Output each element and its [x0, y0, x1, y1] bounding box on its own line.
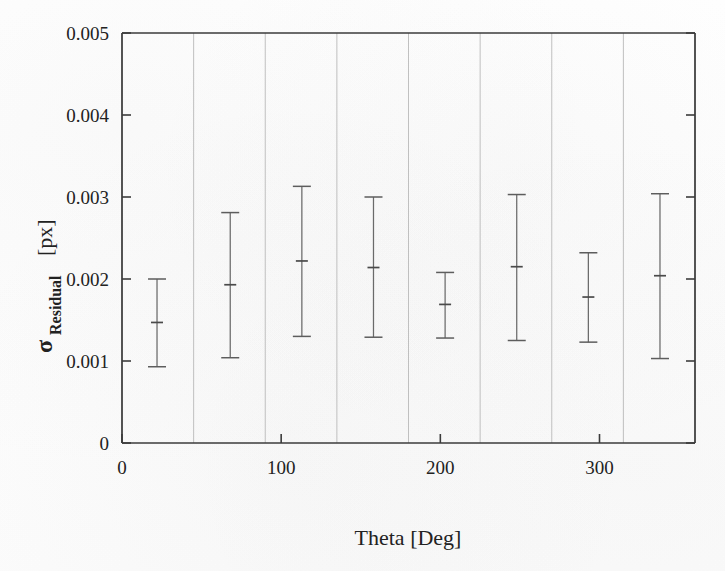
- x-tick-label: 100: [267, 457, 296, 478]
- y-tick-label: 0.001: [66, 351, 109, 372]
- y-axis-subscript: Residual: [47, 275, 64, 335]
- y-tick-label: 0.005: [66, 23, 109, 44]
- x-tick-label: 300: [585, 457, 614, 478]
- error-bar-point[interactable]: [579, 253, 597, 342]
- x-tick-label-group: 0100200300: [117, 457, 614, 478]
- error-bar-point[interactable]: [221, 213, 239, 358]
- plot-canvas: 00.0010.0020.0030.0040.005 0100200300 Th…: [0, 0, 725, 571]
- y-tick-label: 0: [100, 433, 110, 454]
- error-bar-point[interactable]: [651, 194, 669, 359]
- y-tick-label: 0.002: [66, 269, 109, 290]
- error-bar-point[interactable]: [364, 197, 382, 337]
- y-tick-label-group: 00.0010.0020.0030.0040.005: [66, 23, 109, 454]
- y-tick-label: 0.004: [66, 105, 109, 126]
- y-axis-sigma-symbol: σ: [31, 340, 57, 353]
- error-bar-point[interactable]: [436, 272, 454, 338]
- y-axis-label: σ Residual [px]: [31, 219, 64, 353]
- error-bar-point[interactable]: [293, 186, 311, 336]
- x-tick-label: 0: [117, 457, 127, 478]
- error-bar-point[interactable]: [508, 195, 526, 341]
- y-tick-label: 0.003: [66, 187, 109, 208]
- y-axis-unit: [px]: [32, 219, 57, 256]
- error-bar-point[interactable]: [148, 279, 166, 367]
- x-axis-label: Theta [Deg]: [355, 525, 462, 550]
- x-tick-label: 200: [426, 457, 455, 478]
- error-bar-figure: 00.0010.0020.0030.0040.005 0100200300 Th…: [0, 0, 725, 571]
- gridline-group: [122, 33, 695, 443]
